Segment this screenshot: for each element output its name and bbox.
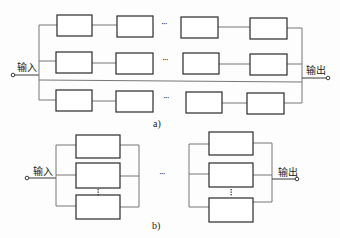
- block-a-r1-c1: [57, 15, 92, 36]
- caption-b: b): [152, 221, 160, 231]
- input-label-a: 输入: [17, 63, 37, 73]
- caption-a: a): [153, 119, 161, 129]
- block-a-r2-c1: [56, 52, 92, 73]
- input-label-b: 输入: [33, 167, 53, 177]
- block-a-r3-c2: [116, 91, 153, 112]
- ellipsis-a-r2: ···: [162, 56, 168, 65]
- ellipsis-b: ···: [159, 170, 165, 179]
- input-terminal-b: [25, 176, 29, 180]
- block-b-g2-3: [209, 198, 253, 222]
- block-a-r2-c2: [116, 53, 153, 74]
- block-a-r3-c4: [247, 93, 284, 114]
- ellipsis-a-r3: ···: [163, 94, 169, 103]
- output-label-b: 输出: [278, 168, 298, 178]
- block-a-r1-c2: [117, 16, 153, 37]
- block-a-r2-c3: [183, 53, 219, 74]
- block-b-g2-2: [209, 163, 253, 187]
- block-b-g1-2: [76, 163, 120, 188]
- output-terminal-a: [326, 76, 330, 80]
- block-b-g2-1: [209, 132, 253, 155]
- input-terminal-a: [11, 73, 15, 77]
- ellipsis-a-r1: ···: [161, 20, 167, 29]
- series-parallel-diagram: 输入 输出 ··· ··· ··· a) 输入 输出 ··· b): [0, 0, 340, 238]
- block-b-g1-3: [76, 195, 120, 219]
- block-a-r2-c4: [250, 54, 287, 75]
- block-a-r3-c1: [56, 90, 92, 111]
- block-b-g1-1: [76, 135, 120, 158]
- output-label-a: 输出: [306, 66, 326, 76]
- block-a-r3-c3: [186, 92, 222, 113]
- diagram-lines: [0, 0, 340, 238]
- block-a-r1-c4: [250, 18, 287, 39]
- block-a-r1-c3: [181, 17, 218, 38]
